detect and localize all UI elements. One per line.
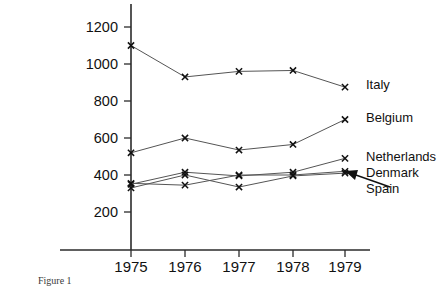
- y-tick-label: 600: [94, 130, 118, 146]
- legend-item-spain: Spain: [366, 181, 399, 196]
- y-tick-label: 200: [94, 204, 118, 220]
- legend-item-denmark: Denmark: [366, 165, 419, 180]
- y-tick-labels: 1200 1000 800 600 400 200: [86, 19, 118, 220]
- x-tick-marks: [131, 250, 345, 257]
- x-tick-label: 1975: [114, 258, 147, 275]
- data-point-netherlands-1979: [342, 155, 348, 161]
- legend: Italy Belgium Netherlands Denmark Spain: [366, 77, 437, 196]
- x-tick-labels: 1975 1976 1977 1978 1979: [114, 258, 361, 275]
- data-point-belgium-1979: [342, 116, 348, 122]
- chart-page: 1200 1000 800 600 400 200 1975 1976 1977…: [0, 0, 440, 286]
- x-tick-label: 1976: [168, 258, 201, 275]
- legend-item-italy: Italy: [366, 77, 390, 92]
- series-line-belgium: [131, 120, 345, 153]
- series-line-italy: [131, 46, 345, 88]
- series-layer: [128, 42, 348, 191]
- x-tick-label: 1979: [328, 258, 361, 275]
- y-tick-label: 1000: [86, 56, 118, 72]
- line-chart: 1200 1000 800 600 400 200 1975 1976 1977…: [0, 0, 440, 286]
- y-tick-label: 1200: [86, 19, 118, 35]
- y-tick-label: 800: [94, 93, 118, 109]
- legend-item-belgium: Belgium: [366, 110, 413, 125]
- x-tick-label: 1977: [222, 258, 255, 275]
- figure-caption: Figure 1: [38, 275, 72, 286]
- data-point-italy-1979: [342, 84, 348, 90]
- y-tick-label: 400: [94, 167, 118, 183]
- legend-item-netherlands: Netherlands: [366, 149, 437, 164]
- x-tick-label: 1978: [276, 258, 309, 275]
